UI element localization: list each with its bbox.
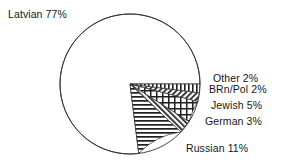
pie-chart-figure: Latvian 77% Other 2% BRn/Pol 2% Jewish 5…	[0, 0, 299, 166]
slice-label-latvian: Latvian 77%	[8, 9, 67, 21]
slice-label-german: German 3%	[205, 116, 262, 128]
slice-label-brnpol: BRn/Pol 2%	[209, 84, 267, 96]
slice-label-russian: Russian 11%	[186, 143, 248, 155]
slice-label-jewish: Jewish 5%	[211, 100, 262, 112]
